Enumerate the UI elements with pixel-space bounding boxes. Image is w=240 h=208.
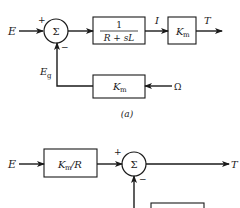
minus-sign: − bbox=[61, 42, 69, 52]
current-i-label: I bbox=[154, 15, 160, 26]
output-t-label-b: T bbox=[231, 159, 239, 170]
transfer-denominator: R + sL bbox=[103, 33, 135, 43]
plus-sign: + bbox=[38, 15, 46, 25]
eg-sub: g bbox=[47, 72, 52, 80]
block-diagram-canvas: E Σ + − 1 R + sL I K m T E g K m Ω (a) E bbox=[0, 0, 240, 208]
plus-sign-b: + bbox=[114, 147, 122, 157]
minus-sign-b: − bbox=[139, 174, 147, 184]
caption-a: (a) bbox=[121, 109, 134, 119]
omega-label: Ω bbox=[174, 82, 181, 92]
output-t-label: T bbox=[204, 15, 212, 26]
diagram-b: E K m /R + Σ − T bbox=[7, 147, 239, 208]
kmr-suffix: /R bbox=[70, 159, 82, 170]
sigma-symbol-b: Σ bbox=[130, 159, 137, 170]
sigma-symbol: Σ bbox=[52, 26, 59, 37]
transfer-numerator: 1 bbox=[116, 20, 122, 30]
km-sub: m bbox=[183, 31, 190, 39]
diagram-a: E Σ + − 1 R + sL I K m T E g K m Ω (a) bbox=[7, 15, 222, 119]
input-e-label-b: E bbox=[7, 158, 16, 171]
feedback-block-b-partial bbox=[151, 203, 204, 208]
input-e-label: E bbox=[7, 25, 16, 38]
fb-km-sub: m bbox=[120, 86, 127, 94]
